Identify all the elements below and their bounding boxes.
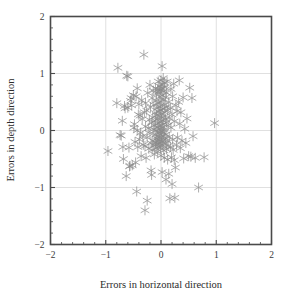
- x-tick-label: −2: [45, 250, 55, 260]
- x-tick-label: −1: [101, 250, 111, 260]
- y-tick-label: −1: [34, 183, 44, 193]
- y-axis-title: Errors in depth direction: [5, 78, 16, 182]
- y-tick-label: −2: [34, 240, 44, 250]
- x-axis-title: Errors in horizontal direction: [100, 279, 223, 290]
- y-tick-label: 1: [40, 69, 45, 79]
- y-tick-label: 2: [40, 12, 45, 22]
- x-tick-label: 2: [269, 250, 274, 260]
- scatter-plot-figure: −2−1012−2−1012 Errors in horizontal dire…: [0, 0, 286, 294]
- chart-canvas: −2−1012−2−1012 Errors in horizontal dire…: [0, 0, 286, 294]
- x-tick-label: 0: [159, 250, 164, 260]
- x-tick-label: 1: [214, 250, 219, 260]
- y-tick-label: 0: [40, 126, 45, 136]
